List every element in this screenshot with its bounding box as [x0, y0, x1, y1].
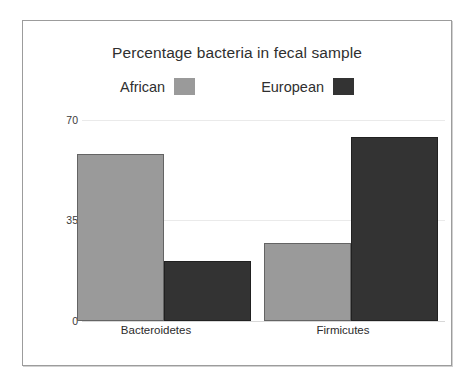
x-label-firmicutes: Firmicutes: [316, 324, 369, 336]
chart-frame: Percentage bacteria in fecal sample Afri…: [22, 20, 452, 366]
legend-label-european: European: [261, 79, 324, 95]
bar-european-firmicutes[interactable]: [351, 137, 438, 321]
gridline-0: [82, 321, 445, 322]
bar-african-bacteroidetes[interactable]: [77, 154, 164, 321]
bar-african-firmicutes[interactable]: [264, 243, 351, 321]
legend-swatch-african: [174, 78, 195, 95]
x-axis-labels: Bacteroidetes Firmicutes: [59, 324, 445, 344]
bars-container: [59, 120, 445, 321]
legend-label-african: African: [120, 79, 165, 95]
legend-swatch-european: [333, 78, 354, 95]
legend-item-european[interactable]: European: [261, 78, 354, 95]
legend-item-african[interactable]: African: [120, 78, 195, 95]
x-label-bacteroidetes: Bacteroidetes: [121, 324, 191, 336]
bar-european-bacteroidetes[interactable]: [164, 261, 251, 321]
chart-legend: African European: [23, 78, 451, 95]
chart-title: Percentage bacteria in fecal sample: [23, 44, 451, 62]
